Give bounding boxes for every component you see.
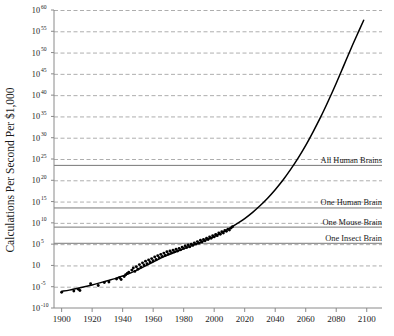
y-tick-exponent: 20 [41, 174, 47, 180]
y-tick-exponent: 40 [41, 89, 47, 95]
y-tick-exponent: 25 [41, 153, 47, 159]
data-point [138, 263, 141, 266]
y-tick-exponent: 35 [41, 110, 47, 116]
reference-label-1: One Human Brain [321, 198, 383, 207]
data-point [132, 267, 135, 270]
y-tick-label: 10 [32, 6, 40, 15]
x-tick-label: 2080 [327, 314, 346, 324]
y-tick-label: 10 [32, 198, 40, 207]
x-tick-label: 2000 [205, 314, 224, 324]
y-tick-label: 10 [32, 261, 40, 270]
y-axis-title: Calculations Per Second Per $1,000 [4, 87, 17, 252]
reference-label-2: One Mouse Brain [322, 218, 382, 227]
y-tick-label: 10 [32, 91, 40, 100]
data-point [78, 289, 81, 292]
y-tick-exponent: 50 [41, 46, 47, 52]
y-tick-exponent: 10 [41, 216, 47, 222]
data-point [135, 265, 138, 268]
y-tick-label: 10 [32, 219, 40, 228]
x-tick-label: 1920 [83, 314, 102, 324]
x-tick-label: 1900 [53, 314, 72, 324]
reference-label-0: All Human Brains [321, 156, 382, 165]
y-tick-exponent: 30 [41, 131, 47, 137]
chart-container: Calculations Per Second Per $1,000 All H… [0, 0, 394, 336]
y-tick-label: 10 [32, 283, 40, 292]
y-tick-label: 10 [32, 240, 40, 249]
y-tick-exponent: 55 [41, 25, 47, 31]
gridlines-group [54, 11, 382, 288]
y-tick-exponent: 5 [41, 238, 44, 244]
reference-labels-group: All Human BrainsOne Human BrainOne Mouse… [321, 156, 383, 243]
y-tick-label: 10 [32, 155, 40, 164]
y-tick-exponent: 60 [41, 4, 47, 10]
y-axis-ticks-group: 10-1010-51010510101015102010251030103510… [32, 4, 54, 314]
y-tick-label: 10 [32, 112, 40, 121]
y-tick-exponent: 45 [41, 67, 47, 73]
x-tick-label: 1980 [175, 314, 194, 324]
x-tick-label: 2040 [266, 314, 285, 324]
scatter-points-group [60, 225, 234, 293]
y-tick-label: 10 [32, 70, 40, 79]
trend-curve [62, 20, 364, 291]
x-tick-label: 2100 [358, 314, 377, 324]
x-tick-label: 1940 [114, 314, 133, 324]
y-tick-label: 10 [32, 134, 40, 143]
x-tick-label: 2060 [297, 314, 316, 324]
y-tick-label: 10 [32, 176, 40, 185]
data-point [144, 260, 147, 263]
x-axis-ticks-group: 1900192019401960198020002020204020602080… [53, 308, 377, 324]
data-point [153, 255, 156, 258]
y-tick-label: 10 [32, 27, 40, 36]
y-tick-exponent: -10 [41, 302, 49, 308]
computing-power-log-chart: Calculations Per Second Per $1,000 All H… [0, 0, 394, 336]
reference-label-3: One Insect Brain [325, 234, 383, 243]
data-point [120, 278, 123, 281]
x-tick-label: 1960 [144, 314, 163, 324]
y-tick-label: 10 [32, 304, 40, 313]
y-tick-label: 10 [32, 49, 40, 58]
data-point [97, 284, 100, 287]
y-tick-exponent: -5 [41, 280, 46, 286]
x-tick-label: 2020 [236, 314, 255, 324]
y-tick-exponent: 15 [41, 195, 47, 201]
